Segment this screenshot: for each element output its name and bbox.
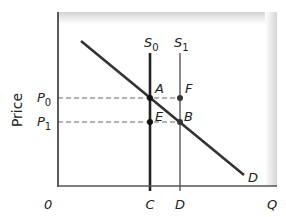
x-axis-label: Q [267, 197, 277, 212]
right-shade [265, 12, 277, 186]
p0-label: P0 [37, 90, 51, 108]
quantity-d-label: D [175, 197, 185, 212]
point-a-marker [147, 95, 153, 101]
demand-line [81, 41, 244, 175]
demand-label: D [248, 170, 258, 185]
point-f-marker [177, 95, 183, 101]
p1-label: P1 [37, 114, 51, 132]
diagram-canvas: A F E B S0 S1 D P0 P1 Price 0 C D Q [0, 0, 286, 217]
point-e-marker [147, 119, 153, 125]
point-b-label: B [184, 109, 193, 124]
point-a-label: A [154, 81, 164, 96]
origin-label: 0 [44, 197, 52, 212]
point-e-label: E [155, 109, 164, 124]
top-shade [58, 12, 277, 24]
s0-label: S0 [144, 35, 159, 53]
supply-demand-diagram: A F E B S0 S1 D P0 P1 Price 0 C D Q [0, 0, 286, 217]
quantity-c-label: C [145, 197, 155, 212]
point-f-label: F [185, 81, 193, 96]
s1-label: S1 [174, 35, 189, 53]
point-b-marker [177, 119, 183, 125]
y-axis-label: Price [9, 93, 25, 127]
